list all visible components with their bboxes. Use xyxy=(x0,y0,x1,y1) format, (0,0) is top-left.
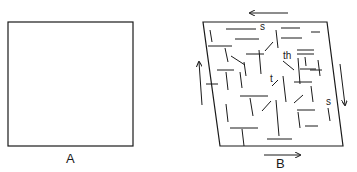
annotation-s-top: s xyxy=(260,22,265,32)
diagram-svg xyxy=(0,0,357,172)
fracture-segments xyxy=(206,28,330,146)
panel-a-square xyxy=(8,22,133,146)
annotation-t: t xyxy=(270,74,273,84)
arrow-right-down xyxy=(340,64,345,105)
figure-canvas: A B s th t s xyxy=(0,0,357,172)
arrow-left-up xyxy=(199,62,202,105)
panel-label-a: A xyxy=(66,152,75,165)
annotation-s-right: s xyxy=(326,97,331,107)
shear-arrows xyxy=(199,13,345,155)
panel-label-b: B xyxy=(276,157,285,170)
annotation-th: th xyxy=(283,51,291,61)
panel-b-parallelogram xyxy=(203,22,343,146)
